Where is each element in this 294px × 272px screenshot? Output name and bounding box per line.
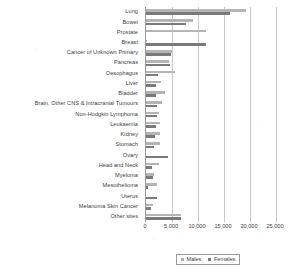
bar-males [146, 91, 165, 94]
bar-males [146, 60, 169, 63]
bar-group [146, 161, 276, 171]
gridline [276, 7, 277, 222]
bar-group [146, 191, 276, 201]
category-label: Lung [0, 7, 141, 17]
category-label: Oesophagus [0, 68, 141, 78]
bar-group [146, 48, 276, 58]
bar-group [146, 79, 276, 89]
category-label: Myeloma [0, 171, 141, 181]
bar-group [146, 89, 276, 99]
value-axis-tick: 0 [143, 224, 146, 230]
bar-males [146, 122, 160, 125]
bar-group [146, 27, 276, 37]
plot-area [145, 7, 276, 222]
bar-females [146, 94, 156, 97]
bar-females [146, 105, 157, 108]
bar-group [146, 120, 276, 130]
bar-females [146, 125, 156, 128]
value-axis: 05,00010,00015,00020,00025,000 [145, 222, 275, 234]
bar-group [146, 171, 276, 181]
bar-females [146, 23, 186, 26]
category-label: Brain, Other CNS & Intracranial Tumours [0, 99, 141, 109]
bar-group [146, 130, 276, 140]
bar-females [146, 207, 151, 210]
bar-males [146, 214, 181, 217]
bar-group [146, 99, 276, 109]
bar-group [146, 150, 276, 160]
legend-item[interactable]: Females [208, 257, 235, 263]
bar-males [146, 101, 162, 104]
bar-females [146, 74, 158, 77]
bar-group [146, 140, 276, 150]
bar-males [146, 9, 246, 12]
bar-males [146, 19, 193, 22]
bar-males [146, 142, 160, 145]
bar-females [146, 115, 157, 118]
category-label: Head and Neck [0, 161, 141, 171]
bar-females [146, 53, 171, 56]
category-label: Prostate [0, 27, 141, 37]
bar-females [146, 176, 153, 179]
value-axis-tick: 15,000 [214, 224, 231, 230]
legend-label: Males [187, 257, 202, 263]
category-label: Other sites [0, 212, 141, 222]
category-label: Pancreas [0, 58, 141, 68]
value-axis-tick: 25,000 [266, 224, 283, 230]
category-label: Stomach [0, 140, 141, 150]
category-label: Kidney [0, 130, 141, 140]
value-axis-tick: 5,000 [164, 224, 178, 230]
bar-group [146, 181, 276, 191]
bar-chart: LungBowelProstateBreastCancer of Unknown… [0, 0, 294, 272]
bar-females [146, 146, 154, 149]
bar-males [146, 30, 206, 33]
category-label: Ovary [0, 150, 141, 160]
bar-group [146, 7, 276, 17]
bar-females [146, 84, 156, 87]
bar-group [146, 109, 276, 119]
category-label: Melanoma Skin Cancer [0, 201, 141, 211]
chart-legend: MalesFemales [176, 254, 240, 265]
category-label: Uterus [0, 191, 141, 201]
bar-males [146, 71, 175, 74]
bar-males [146, 173, 154, 176]
category-label: Liver [0, 79, 141, 89]
category-axis-labels: LungBowelProstateBreastCancer of Unknown… [0, 7, 141, 222]
bar-females [146, 135, 155, 138]
category-label: Leukaemia [0, 120, 141, 130]
category-label: Non-Hodgkin Lymphoma [0, 109, 141, 119]
bar-males [146, 132, 160, 135]
bar-females [146, 197, 157, 200]
plot-wrapper: LungBowelProstateBreastCancer of Unknown… [0, 0, 294, 250]
bar-males [146, 183, 157, 186]
category-label: Breast [0, 38, 141, 48]
bar-rows [146, 7, 276, 222]
bar-females [146, 186, 148, 189]
legend-swatch-females [208, 258, 211, 261]
bar-males [146, 50, 172, 53]
value-axis-tick: 10,000 [188, 224, 205, 230]
bar-females [146, 12, 230, 15]
category-label: Cancer of Unknown Primary [0, 48, 141, 58]
bar-females [146, 217, 181, 220]
bar-females [146, 166, 152, 169]
bar-males [146, 204, 153, 207]
bar-females [146, 64, 170, 67]
bar-group [146, 212, 276, 222]
bar-males [146, 81, 161, 84]
value-axis-tick: 20,000 [240, 224, 257, 230]
bar-group [146, 58, 276, 68]
bar-females [146, 156, 168, 159]
bar-group [146, 38, 276, 48]
legend-label: Females [214, 257, 235, 263]
category-label: Bowel [0, 17, 141, 27]
category-label: Bladder [0, 89, 141, 99]
bar-females [146, 43, 206, 46]
bar-group [146, 17, 276, 27]
legend-swatch-males [181, 258, 184, 261]
legend-item[interactable]: Males [181, 257, 201, 263]
bar-group [146, 68, 276, 78]
bar-males [146, 112, 159, 115]
bar-group [146, 201, 276, 211]
bar-males [146, 163, 159, 166]
category-label: Mesothelioma [0, 181, 141, 191]
